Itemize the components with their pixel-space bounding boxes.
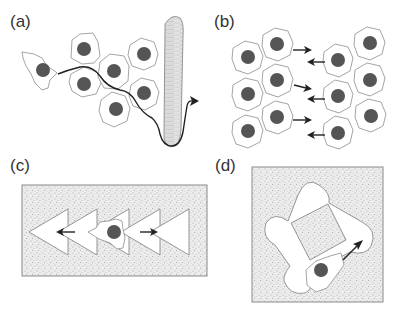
panel-a: (a) <box>10 12 199 147</box>
panel-d: (d) <box>215 156 383 302</box>
migration-arrows <box>293 46 325 139</box>
figure: (a) (b) <box>0 0 399 309</box>
panel-c: (c) <box>10 156 207 276</box>
panel-c-label: (c) <box>10 156 30 175</box>
blood-vessel <box>164 16 183 147</box>
panel-d-label: (d) <box>215 156 236 175</box>
panel-b-label: (b) <box>214 12 235 31</box>
left-cell-sheet <box>232 28 293 148</box>
nucleus <box>36 63 50 77</box>
right-cell-sheet <box>323 27 386 149</box>
panel-b: (b) <box>214 12 386 149</box>
panel-a-label: (a) <box>10 12 31 31</box>
migrating-cell <box>22 52 57 90</box>
